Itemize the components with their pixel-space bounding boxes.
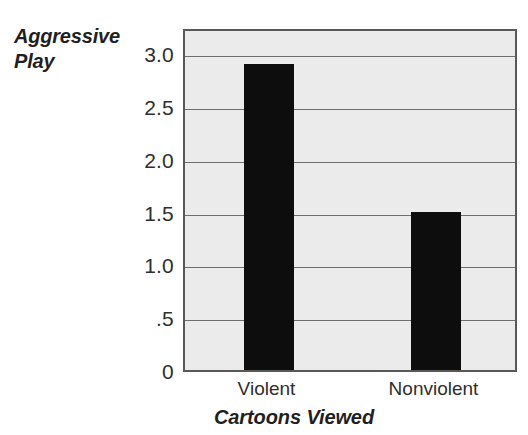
x-axis-title: Cartoons Viewed — [0, 405, 528, 429]
y-tick-label: .5 — [114, 308, 174, 329]
bar-violent — [244, 64, 294, 370]
gridline — [185, 267, 515, 268]
bar-chart-figure: Aggressive Play 0.51.01.52.02.53.0 Viole… — [0, 0, 528, 435]
bar-nonviolent — [411, 212, 461, 370]
gridline — [185, 56, 515, 57]
x-tick-label-nonviolent: Nonviolent — [389, 378, 479, 400]
y-tick-label: 2.5 — [114, 97, 174, 118]
x-tick-label-violent: Violent — [238, 378, 296, 400]
y-tick-label: 3.0 — [114, 44, 174, 65]
y-axis-tick-labels: 0.51.01.52.02.53.0 — [112, 0, 174, 435]
y-tick-label: 1.0 — [114, 255, 174, 276]
gridline — [185, 215, 515, 216]
plot-area — [183, 29, 517, 372]
y-tick-label: 1.5 — [114, 203, 174, 224]
gridline — [185, 162, 515, 163]
y-tick-label: 0 — [114, 361, 174, 382]
gridline — [185, 109, 515, 110]
y-tick-label: 2.0 — [114, 150, 174, 171]
gridline — [185, 320, 515, 321]
